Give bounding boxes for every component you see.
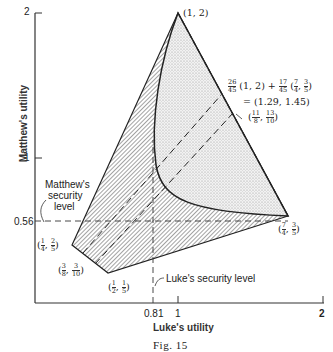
x-tick-0-81: 0.81 — [144, 308, 163, 319]
x-tick-1: 1 — [175, 308, 181, 319]
point-quarter-label: (14, 25) — [37, 238, 59, 253]
point-half-label: (12, 15) — [108, 280, 130, 295]
combo-result: = (1.29, 1.45) — [243, 96, 310, 107]
diagram-canvas — [0, 0, 333, 352]
figure-caption: Fig. 15 — [153, 340, 188, 351]
y-axis-label: Matthew's utility — [18, 84, 29, 164]
combo-label: 2645 (1, 2) + 1745 (74, 35) — [228, 79, 312, 94]
point-11-8-label: (118, 1310) — [248, 110, 278, 125]
matthew-security-label-1: Matthew's — [45, 179, 90, 190]
point-3-8-label: (38, 310) — [58, 263, 84, 278]
matthew-security-label-2: security — [48, 190, 82, 201]
top-vertex-label: (1, 2) — [183, 7, 209, 18]
point-7-4-label: (74, 35) — [278, 222, 300, 237]
x-axis-label: Luke's utility — [153, 322, 214, 333]
matthew-security-label-3: level — [54, 201, 75, 212]
luke-security-label: Luke's security level — [166, 273, 255, 284]
y-tick-0-56: 0.56 — [14, 216, 33, 227]
x-tick-2: 2 — [319, 308, 325, 319]
y-tick-2: 2 — [24, 6, 30, 17]
